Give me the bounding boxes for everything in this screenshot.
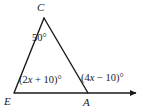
geometry-figure: C E A 50° (2x + 10)° (4x − 10)° [0, 0, 147, 111]
right-angle-suffix: − 10)° [94, 72, 123, 83]
angle-label-exterior-right: (4x − 10)° [81, 73, 124, 84]
vertex-label-a: A [83, 97, 90, 108]
angle-label-apex: 50° [32, 33, 47, 44]
vertex-label-e: E [4, 96, 11, 107]
right-angle-prefix: (4 [81, 72, 90, 83]
angle-label-left-base: (2x + 10)° [19, 75, 62, 86]
triangle-diagram-svg [0, 0, 147, 111]
left-angle-prefix: (2 [19, 74, 28, 85]
left-angle-suffix: + 10)° [32, 74, 61, 85]
vertex-label-c: C [37, 2, 44, 13]
